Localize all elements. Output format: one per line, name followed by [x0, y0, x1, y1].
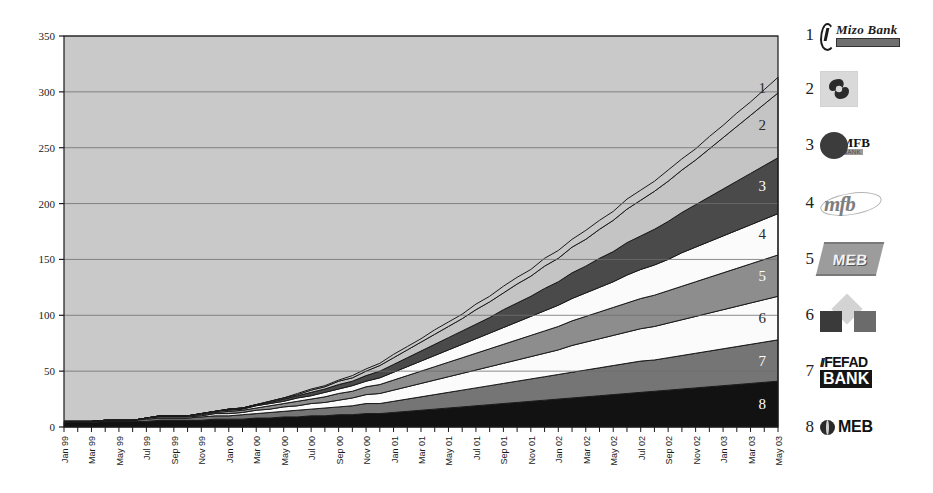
- x-tick-label-12: Jan 00: [225, 436, 235, 463]
- x-tick-label-48: Jan 03: [719, 436, 729, 463]
- band-label-2: 2: [759, 117, 767, 133]
- y-tick-label-0: 0: [50, 421, 56, 433]
- band-label-8: 8: [759, 396, 767, 412]
- x-tick-label-26: Mar 01: [417, 436, 427, 464]
- mfb-script-logo: mfb: [820, 183, 933, 223]
- x-tick-label-36: Jan 02: [554, 436, 564, 463]
- x-tick-label-24: Jan 01: [390, 436, 400, 463]
- chart-page: 050100150200250300350Jan 99Mar 99May 99J…: [0, 0, 933, 493]
- legend-number-4: 4: [790, 193, 820, 213]
- chart-svg: 050100150200250300350Jan 99Mar 99May 99J…: [0, 0, 790, 493]
- y-tick-label-350: 350: [39, 30, 56, 42]
- swirl-icon: [826, 76, 852, 102]
- mizo-mark-icon: [820, 22, 833, 48]
- legend-number-7: 7: [790, 361, 820, 381]
- legend-item-6[interactable]: 6: [790, 292, 933, 338]
- y-tick-label-150: 150: [39, 253, 56, 265]
- mfb-script-wordmark: mfb: [824, 192, 855, 217]
- band-label-7: 7: [759, 353, 767, 369]
- fefad-wordmark: FEFAD: [824, 354, 867, 370]
- x-tick-label-2: Mar 99: [87, 436, 97, 464]
- fefad-bank-wordmark: BANK: [820, 370, 872, 388]
- left-square-icon: [820, 311, 842, 332]
- y-tick-label-50: 50: [44, 365, 56, 377]
- fefad-slash-icon: //: [820, 355, 823, 370]
- x-tick-label-32: Sep 01: [499, 436, 509, 465]
- mfb-ellipse-logo: MFB BANK: [820, 125, 933, 165]
- x-tick-label-6: Jul 99: [142, 436, 152, 460]
- swirl-logo-tile: [820, 71, 858, 107]
- mfb-ellipse-icon: [820, 132, 848, 159]
- meb-slanted-logo: MEB: [820, 239, 933, 279]
- band-label-4: 4: [759, 226, 767, 242]
- x-tick-label-42: Jul 02: [637, 436, 647, 460]
- band-label-5: 5: [759, 268, 767, 284]
- x-tick-label-44: Sep 02: [664, 436, 674, 465]
- x-tick-label-18: Jul 00: [307, 436, 317, 460]
- x-tick-label-28: May 01: [444, 436, 454, 466]
- swirl-logo: [820, 69, 933, 109]
- y-tick-label-200: 200: [39, 198, 56, 210]
- legend-item-7[interactable]: 7 // FEFAD BANK: [790, 348, 933, 394]
- stacked-area-chart: 050100150200250300350Jan 99Mar 99May 99J…: [0, 0, 790, 493]
- x-tick-label-30: Jul 01: [472, 436, 482, 460]
- meb-slanted-wordmark: MEB: [832, 251, 869, 268]
- legend-number-1: 1: [790, 25, 820, 45]
- legend-number-8: 8: [790, 417, 820, 437]
- mizo-bank-wordmark: Mizo Bank: [836, 23, 898, 36]
- x-tick-label-8: Sep 99: [170, 436, 180, 465]
- x-tick-label-22: Nov 00: [362, 436, 372, 465]
- legend-item-4[interactable]: 4 mfb: [790, 180, 933, 226]
- x-tick-label-40: May 02: [609, 436, 619, 466]
- meb-slanted-tile: MEB: [816, 242, 884, 276]
- mizo-underbar: [836, 38, 900, 47]
- legend-item-5[interactable]: 5 MEB: [790, 236, 933, 282]
- y-tick-label-250: 250: [39, 142, 56, 154]
- x-tick-label-4: May 99: [115, 436, 125, 466]
- meb-globe-logo: MEB: [820, 407, 933, 447]
- x-tick-label-52: May 03: [774, 436, 784, 466]
- diamond-squares-logo: [820, 295, 933, 335]
- x-tick-label-34: Nov 01: [527, 436, 537, 465]
- y-tick-label-300: 300: [39, 86, 56, 98]
- legend-number-2: 2: [790, 79, 820, 99]
- fefad-bank-logo: // FEFAD BANK: [820, 351, 933, 391]
- band-label-6: 6: [759, 310, 767, 326]
- legend-item-8[interactable]: 8 MEB: [790, 404, 933, 450]
- band-label-1: 1: [759, 80, 767, 96]
- mizo-bank-logo: Mizo Bank: [820, 15, 933, 55]
- x-tick-label-38: Mar 02: [582, 436, 592, 464]
- band-label-3: 3: [759, 178, 767, 194]
- right-square-icon: [854, 311, 876, 332]
- y-tick-label-100: 100: [39, 309, 56, 321]
- x-tick-label-50: Mar 03: [747, 436, 757, 464]
- legend-number-5: 5: [790, 249, 820, 269]
- meb-globe-wordmark: MEB: [838, 418, 873, 436]
- x-tick-label-16: May 00: [280, 436, 290, 466]
- legend-item-3[interactable]: 3 MFB BANK: [790, 122, 933, 168]
- legend-item-1[interactable]: 1 Mizo Bank: [790, 12, 933, 58]
- legend-item-2[interactable]: 2: [790, 66, 933, 112]
- x-tick-label-20: Sep 00: [335, 436, 345, 465]
- chart-legend: 1 Mizo Bank 2: [790, 0, 933, 493]
- x-tick-label-14: Mar 00: [252, 436, 262, 464]
- x-tick-label-0: Jan 99: [60, 436, 70, 463]
- legend-number-3: 3: [790, 135, 820, 155]
- x-tick-label-46: Nov 02: [692, 436, 702, 465]
- globe-icon: [820, 420, 835, 435]
- x-tick-label-10: Nov 99: [197, 436, 207, 465]
- legend-number-6: 6: [790, 305, 820, 325]
